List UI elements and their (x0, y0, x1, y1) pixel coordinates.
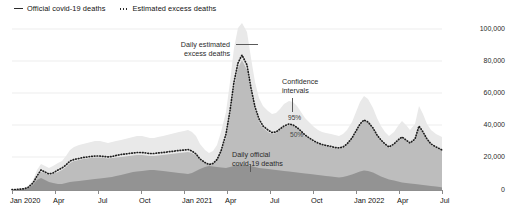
leader-line-official (250, 164, 251, 172)
x-tick-label-jan-2020: Jan 2020 (10, 196, 40, 205)
x-tick-8 (356, 190, 357, 194)
legend-item-excess: Estimated excess deaths (119, 4, 216, 13)
y-tick-label-80000: 80,000 (484, 57, 505, 64)
y-tick-label-100000: 100,000 (480, 25, 505, 32)
x-tick-label-jul-2021: Jul (270, 196, 279, 205)
x-tick-label-apr-2020: Apr (53, 196, 65, 205)
annotation-official-deaths: Daily official covid-19 deaths (232, 150, 322, 168)
x-tick-9 (399, 190, 400, 194)
x-tick-0 (12, 190, 13, 194)
x-tick-label-jul-2020: Jul (98, 196, 107, 205)
x-tick-5 (227, 190, 228, 194)
x-tick-2 (98, 190, 99, 194)
y-axis-labels: 100,000 80,000 60,000 40,000 20,000 0 (445, 20, 505, 195)
x-tick-label-oct-2021: Oct (311, 196, 323, 205)
leader-line-confidence (292, 98, 293, 112)
x-tick-label-jul-2022: Jul (440, 196, 449, 205)
x-tick-label-apr-2021: Apr (225, 196, 237, 205)
x-tick-label-oct-2020: Oct (139, 196, 151, 205)
chart-svg (0, 20, 508, 195)
x-tick-label-jan-2022: Jan 2022 (354, 196, 384, 205)
x-tick-1 (55, 190, 56, 194)
legend-item-official: Official covid-19 deaths (14, 4, 105, 13)
x-tick-label-jan-2021: Jan 2021 (182, 196, 212, 205)
confidence-label-50: 50% (290, 131, 303, 138)
y-tick-label-60000: 60,000 (484, 89, 505, 96)
x-tick-7 (313, 190, 314, 194)
dotted-line-swatch-icon (119, 8, 128, 10)
excess-deaths-chart: Official covid-19 deaths Estimated exces… (0, 0, 508, 223)
x-tick-4 (184, 190, 185, 194)
x-tick-6 (270, 190, 271, 194)
chart-legend: Official covid-19 deaths Estimated exces… (14, 4, 216, 13)
annotation-confidence-intervals: Confidence intervals (282, 77, 342, 95)
legend-label-official: Official covid-19 deaths (27, 4, 105, 13)
x-axis: Jan 2020 Apr Jul Oct Jan 2021 Apr Jul Oc… (0, 190, 508, 223)
x-tick-3 (141, 190, 142, 194)
y-tick-label-20000: 20,000 (484, 153, 505, 160)
solid-line-swatch-icon (14, 8, 23, 9)
x-tick-10 (442, 190, 443, 194)
leader-line-excess (236, 44, 258, 45)
x-tick-label-apr-2022: Apr (397, 196, 409, 205)
confidence-label-95: 95% (288, 114, 301, 121)
y-tick-label-40000: 40,000 (484, 121, 505, 128)
legend-label-excess: Estimated excess deaths (132, 4, 216, 13)
annotation-estimated-excess-deaths: Daily estimated excess deaths (150, 40, 230, 58)
